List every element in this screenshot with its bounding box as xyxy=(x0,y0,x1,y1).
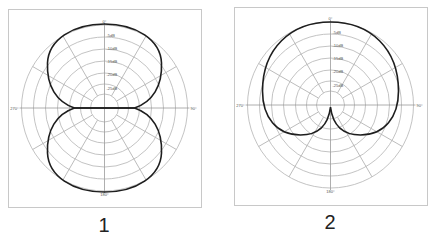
angle-label-top: 0° xyxy=(329,16,333,21)
angle-label-bottom: 180° xyxy=(326,189,335,194)
ring-label: -15dB xyxy=(333,56,344,61)
angle-label-right: 90° xyxy=(417,103,423,108)
ring-label: -25dB xyxy=(333,83,344,88)
ring-label: -5dB xyxy=(333,30,342,35)
angle-label-left: 270° xyxy=(236,103,245,108)
polar-chart-2: 0° 90° 180° 270° -5dB -10dB -15dB -20dB … xyxy=(0,0,432,237)
polar-plot-cardioid: 0° 90° 180° 270° -5dB -10dB -15dB -20dB … xyxy=(0,0,432,237)
ring-label: -10dB xyxy=(333,43,344,48)
ring-label: -20dB xyxy=(333,69,344,74)
chart-caption: 2 xyxy=(315,212,345,232)
